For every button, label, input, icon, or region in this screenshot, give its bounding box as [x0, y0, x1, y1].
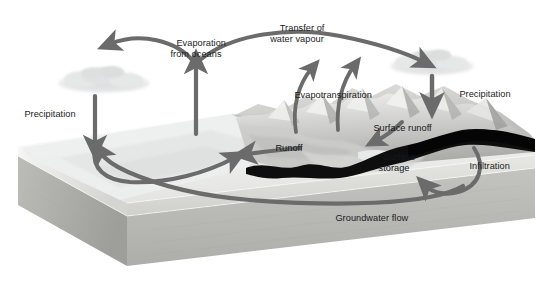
- label-infiltration-text: Infiltration: [469, 161, 509, 171]
- label-evaporation-line1: Evaporation from oceans: [170, 38, 226, 58]
- label-surface-runoff-text: Surface runoff: [373, 123, 431, 133]
- label-precipitation-left: Precipitation: [14, 99, 76, 130]
- label-runoff: Runoff: [265, 133, 303, 164]
- label-surface-storage: Surface storage: [368, 142, 420, 184]
- label-runoff-text: Runoff: [275, 143, 302, 153]
- label-groundwater-flow: Groundwater flow: [325, 203, 408, 234]
- label-evapotranspiration: Evapotranspiration: [284, 80, 372, 111]
- water-cycle-diagram: Evaporation from oceans Transfer of wate…: [0, 0, 545, 289]
- label-surface-runoff: Surface runoff: [363, 113, 432, 144]
- cloud-left: [58, 66, 150, 93]
- label-groundwater-flow-text: Groundwater flow: [335, 213, 408, 223]
- label-evapotranspiration-text: Evapotranspiration: [294, 90, 372, 100]
- label-transfer-line1: Transfer of water vapour: [270, 23, 324, 43]
- label-evaporation-from-oceans: Evaporation from oceans: [147, 28, 245, 70]
- label-infiltration: Infiltration: [459, 151, 510, 182]
- label-precipitation-right-text: Precipitation: [459, 89, 510, 99]
- label-precipitation-left-text: Precipitation: [24, 109, 75, 119]
- label-precipitation-right: Precipitation: [449, 79, 511, 110]
- label-surface-storage-text: Surface storage: [379, 152, 416, 172]
- label-transfer-of-water-vapour: Transfer of water vapour: [247, 13, 347, 55]
